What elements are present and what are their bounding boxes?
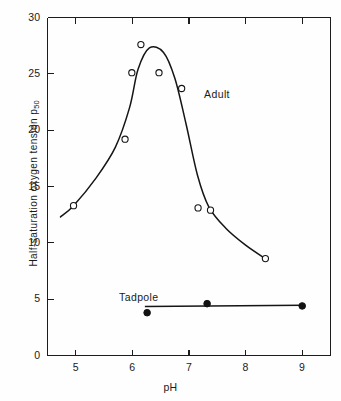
data-point-adult-7 — [207, 207, 213, 213]
y-tick-label-15: 15 — [15, 180, 41, 192]
x-tick-label-9: 9 — [291, 361, 313, 373]
y-tick-label-10: 10 — [15, 236, 41, 248]
chart-figure: Half-saturation oxygen tension p50 pH Ad… — [0, 0, 341, 401]
y-tick-label-20: 20 — [15, 123, 41, 135]
x-tick-label-7: 7 — [178, 361, 200, 373]
y-tick-label-30: 30 — [15, 11, 41, 23]
data-point-adult-6 — [195, 205, 201, 211]
data-point-tadpole-0 — [144, 309, 151, 316]
series-label-tadpole: Tadpole — [119, 291, 159, 303]
y-axis-title-subscript: 50 — [32, 100, 41, 108]
series-curve-adult — [61, 47, 266, 259]
data-point-tadpole-1 — [204, 300, 211, 307]
x-tick-label-5: 5 — [65, 361, 87, 373]
data-point-adult-5 — [179, 85, 185, 91]
y-tick-label-5: 5 — [15, 292, 41, 304]
data-point-adult-2 — [129, 70, 135, 76]
scatter-plot-canvas — [0, 0, 341, 401]
y-tick-label-0: 0 — [15, 349, 41, 361]
data-point-adult-0 — [70, 203, 76, 209]
data-point-adult-4 — [156, 70, 162, 76]
data-point-adult-8 — [262, 256, 268, 262]
data-point-adult-3 — [138, 41, 144, 47]
series-curve-tadpole — [145, 305, 303, 306]
series-label-adult: Adult — [204, 88, 230, 100]
x-tick-label-6: 6 — [121, 361, 143, 373]
x-axis-title: pH — [0, 381, 341, 393]
x-tick-label-8: 8 — [235, 361, 257, 373]
y-tick-label-25: 25 — [15, 67, 41, 79]
data-point-adult-1 — [122, 136, 128, 142]
data-point-tadpole-2 — [299, 303, 306, 310]
